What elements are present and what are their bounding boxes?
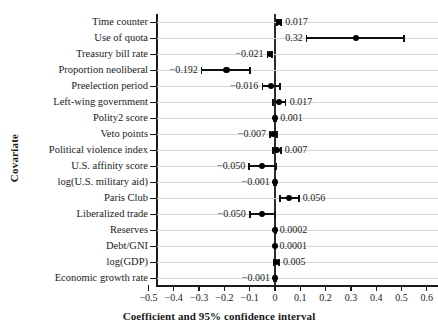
data-point-value-label: 0.017 <box>290 97 313 107</box>
data-point <box>353 35 359 41</box>
data-point <box>267 51 273 57</box>
data-point <box>272 227 278 233</box>
y-axis-tick <box>150 246 157 247</box>
confidence-interval-cap <box>306 35 308 42</box>
confidence-interval-cap <box>274 211 276 218</box>
gridline <box>157 70 438 71</box>
y-axis-tick <box>150 150 157 151</box>
x-axis-tick <box>173 285 174 291</box>
gridline <box>157 166 438 167</box>
data-point <box>272 115 278 121</box>
confidence-interval-cap <box>285 99 287 106</box>
y-axis-label: Reserves <box>0 225 148 235</box>
data-point <box>272 179 278 185</box>
x-axis-tick <box>198 285 199 291</box>
x-axis-tick <box>300 285 301 291</box>
x-axis-tick-label: 0.6 <box>407 292 438 303</box>
y-axis-tick <box>150 166 157 167</box>
data-point-value-label: 0.0001 <box>280 241 308 251</box>
y-axis-label: Proportion neoliberal <box>0 65 148 75</box>
data-point <box>268 83 274 89</box>
y-axis-tick <box>150 134 157 135</box>
x-axis-tick <box>376 285 377 291</box>
data-point-value-label: −0.021 <box>235 49 263 59</box>
confidence-interval-cap <box>280 147 282 154</box>
y-axis-tick <box>150 54 157 55</box>
x-axis-tick <box>249 285 250 291</box>
y-axis-label: U.S. affinity score <box>0 161 148 171</box>
y-axis-tick <box>150 262 157 263</box>
y-axis-label: Veto points <box>0 129 148 139</box>
confidence-interval-cap <box>249 67 251 74</box>
y-axis-label: Treasury bill rate <box>0 49 148 59</box>
data-point <box>272 243 278 249</box>
confidence-interval-cap <box>275 163 277 170</box>
data-point <box>286 195 292 201</box>
y-axis-label: Debt/GNI <box>0 241 148 251</box>
data-point <box>259 211 265 217</box>
y-axis-tick <box>150 86 157 87</box>
x-axis-tick <box>401 285 402 291</box>
y-axis-tick <box>150 182 157 183</box>
data-point-value-label: −0.050 <box>217 161 245 171</box>
confidence-interval-cap <box>298 195 300 202</box>
data-point-value-label: 0.001 <box>280 113 303 123</box>
gridline <box>157 86 438 87</box>
y-axis-tick <box>150 214 157 215</box>
confidence-interval-cap <box>248 163 250 170</box>
data-point-value-label: 0.005 <box>283 257 306 267</box>
data-point-value-label: −0.016 <box>230 81 258 91</box>
y-axis-label: Polity2 score <box>0 113 148 123</box>
y-axis-tick <box>150 278 157 279</box>
gridline <box>157 214 438 215</box>
y-axis-label: Left-wing government <box>0 97 148 107</box>
y-axis-label: Paris Club <box>0 193 148 203</box>
y-axis-label: Use of quota <box>0 33 148 43</box>
y-axis-tick <box>150 118 157 119</box>
gridline <box>157 134 438 135</box>
gridline <box>157 182 438 183</box>
confidence-interval-cap <box>276 131 278 138</box>
data-point-value-label: 0.056 <box>303 193 326 203</box>
y-axis-tick <box>150 70 157 71</box>
y-axis-tick <box>150 198 157 199</box>
y-axis-label: Preelection period <box>0 81 148 91</box>
y-axis-tick <box>150 22 157 23</box>
x-axis-tick <box>426 285 427 291</box>
y-axis-label: log(U.S. military aid) <box>0 177 148 187</box>
data-point-value-label: −0.050 <box>218 209 246 219</box>
confidence-interval-cap <box>201 67 203 74</box>
x-axis-tick <box>274 285 275 291</box>
x-axis-tick <box>148 285 149 291</box>
confidence-interval-cap <box>272 99 274 106</box>
gridline <box>157 278 438 279</box>
data-point <box>274 147 280 153</box>
data-point <box>259 163 265 169</box>
data-point-value-label: −0.001 <box>242 177 270 187</box>
x-axis-tick <box>325 285 326 291</box>
x-axis-tick <box>224 285 225 291</box>
y-axis-label: Time counter <box>0 17 148 27</box>
coefficient-plot: Covariate 0.0170.32−0.021−0.192−0.0160.0… <box>0 0 438 336</box>
data-point-value-label: 0.007 <box>285 145 308 155</box>
confidence-interval-cap <box>279 83 281 90</box>
data-point-value-label: −0.001 <box>242 273 270 283</box>
gridline <box>157 54 438 55</box>
data-point-value-label: 0.32 <box>285 33 303 43</box>
data-point-value-label: −0.007 <box>238 129 266 139</box>
confidence-interval-cap <box>403 35 405 42</box>
confidence-interval-cap <box>249 211 251 218</box>
y-axis-label: Political violence index <box>0 145 148 155</box>
data-point-value-label: 0.0002 <box>280 225 308 235</box>
plot-area: 0.0170.32−0.021−0.192−0.0160.0170.001−0.… <box>157 14 438 285</box>
y-axis-tick <box>150 38 157 39</box>
data-point-value-label: 0.017 <box>285 17 308 27</box>
x-axis-title: Coefficient and 95% confidence interval <box>0 310 438 322</box>
x-axis-tick <box>350 285 351 291</box>
y-axis-label: log(GDP) <box>0 257 148 267</box>
y-axis-tick <box>150 102 157 103</box>
confidence-interval-cap <box>279 195 281 202</box>
y-axis-tick <box>150 230 157 231</box>
data-point <box>223 67 229 73</box>
y-axis-label: Liberalized trade <box>0 209 148 219</box>
